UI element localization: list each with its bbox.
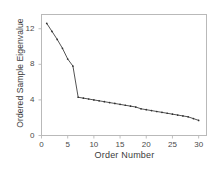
x-tick-label: 5 <box>58 140 78 149</box>
y-tick-label: 0 <box>15 131 35 140</box>
x-tick-label: 30 <box>189 140 209 149</box>
x-axis-title: Order Number <box>41 150 208 160</box>
x-tick-label: 15 <box>110 140 130 149</box>
y-tick-label: 8 <box>15 59 35 68</box>
x-tick-label: 0 <box>32 140 52 149</box>
y-tick-label: 4 <box>15 95 35 104</box>
plot-area <box>41 14 207 136</box>
y-tick-label: 12 <box>15 24 35 33</box>
scree-plot-figure: Ordered Sample Eigenvalue 04812 05101520… <box>0 0 218 173</box>
x-tick-label: 25 <box>162 140 182 149</box>
x-tick-label: 10 <box>84 140 104 149</box>
x-tick-label: 20 <box>136 140 156 149</box>
